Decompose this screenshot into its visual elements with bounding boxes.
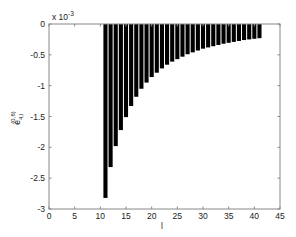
bar: [119, 24, 123, 130]
bar: [139, 24, 143, 89]
bar: [201, 24, 205, 49]
bar: [216, 24, 220, 45]
y-axis-label: e4,l(0,8): [10, 111, 24, 124]
plot-frame: [49, 24, 280, 209]
bar: [237, 24, 241, 41]
bar: [114, 24, 118, 146]
y-tick-label: -2: [37, 142, 45, 152]
x-tick-label: 5: [72, 211, 77, 221]
bar: [144, 24, 148, 83]
x-tick-label: 15: [121, 211, 131, 221]
y-tick-label: -3: [37, 204, 45, 214]
bar: [242, 24, 246, 40]
bar: [227, 24, 231, 43]
x-tick-label: 0: [47, 211, 52, 221]
bar: [150, 24, 154, 77]
bar: [109, 24, 113, 167]
x-tick-label: 45: [275, 211, 285, 221]
x-tick-label: 25: [173, 211, 183, 221]
bar: [155, 24, 159, 73]
y-tick-label: -1: [37, 81, 45, 91]
x-tick-label: 20: [147, 211, 157, 221]
bar: [124, 24, 128, 117]
y-tick-label: 0: [40, 19, 45, 29]
x-tick-label: 10: [96, 211, 106, 221]
bar: [257, 24, 261, 38]
bar: [134, 24, 138, 97]
svg-text:e4,l(0,8): e4,l(0,8): [10, 111, 24, 124]
bar: [191, 24, 195, 52]
bar: [211, 24, 215, 46]
bar: [221, 24, 225, 44]
bar: [186, 24, 190, 54]
bar: [103, 24, 107, 198]
x-tick-label: 35: [224, 211, 234, 221]
bar: [180, 24, 184, 57]
y-multiplier: x 10-3: [52, 10, 74, 22]
bar: [160, 24, 164, 68]
bar: [129, 24, 133, 106]
x-tick-label: 40: [250, 211, 260, 221]
bar: [175, 24, 179, 59]
bar: [247, 24, 251, 39]
bars: [103, 24, 261, 198]
y-tick-label: -0.5: [30, 50, 45, 60]
x-tick-label: 30: [198, 211, 208, 221]
bar: [206, 24, 210, 47]
bar-chart: 051015202530354045 0-0.5-1-1.5-2-2.5-3 x…: [0, 0, 296, 237]
x-axis-label: l: [161, 221, 163, 231]
bar: [196, 24, 200, 51]
y-tick-label: -1.5: [30, 112, 45, 122]
bar: [170, 24, 174, 62]
y-tick-label: -2.5: [30, 173, 45, 183]
bar: [165, 24, 169, 65]
bar: [232, 24, 236, 42]
